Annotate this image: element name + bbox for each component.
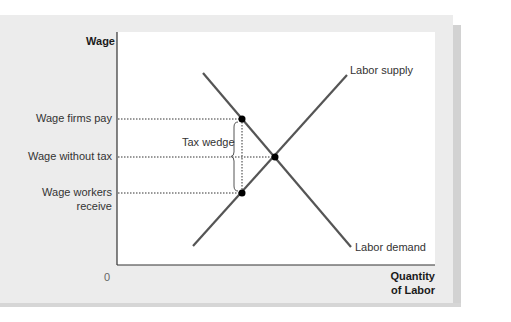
point-equilibrium	[272, 154, 279, 161]
wage-without-tax-label: Wage without tax	[28, 150, 112, 163]
labor-supply-curve	[193, 75, 347, 246]
point-wage-workers-receive	[239, 190, 246, 197]
tax-wedge-brace	[231, 122, 238, 191]
wage-workers-receive-label-line2: receive	[77, 200, 112, 213]
point-wage-firms-pay	[239, 116, 246, 123]
wage-firms-pay-label: Wage firms pay	[36, 112, 112, 125]
labor-demand-label: Labor demand	[355, 241, 426, 254]
origin-label: 0	[104, 271, 110, 284]
x-axis-label-line1: Quantity	[390, 270, 435, 283]
wage-workers-receive-label-line1: Wage workers	[42, 186, 112, 199]
tax-wedge-label: Tax wedge	[182, 136, 235, 149]
x-axis-label-line2: of Labor	[391, 284, 435, 297]
labor-demand-curve	[203, 73, 351, 247]
y-axis-label: Wage	[86, 35, 115, 48]
labor-supply-label: Labor supply	[350, 64, 413, 77]
